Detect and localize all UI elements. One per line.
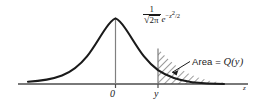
normal-curve	[28, 18, 224, 84]
shaded-tail-area	[158, 49, 225, 84]
figure-canvas	[0, 0, 257, 108]
gaussian-distribution-figure: 1 √2π e−z2/2 Area = Q(y) 0 y z	[0, 0, 257, 108]
